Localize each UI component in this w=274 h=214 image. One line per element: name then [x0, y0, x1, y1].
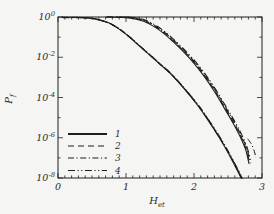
- legend-label-1: 1: [115, 129, 121, 139]
- x-tick-label-3: 3: [259, 181, 265, 192]
- figure: 10010-210-410-610-8 0 1 2 3 1234 Het Pf: [0, 0, 274, 214]
- legend-label-4: 4: [114, 166, 121, 176]
- x-tick-label-0: 0: [55, 181, 61, 192]
- x-tick-label-1: 1: [123, 181, 129, 192]
- legend-label-3: 3: [115, 153, 121, 163]
- legend-label-2: 2: [114, 141, 121, 151]
- x-tick-label-2: 2: [190, 181, 197, 192]
- chart-svg: 10010-210-410-610-8 0 1 2 3 1234 Het Pf: [0, 0, 274, 214]
